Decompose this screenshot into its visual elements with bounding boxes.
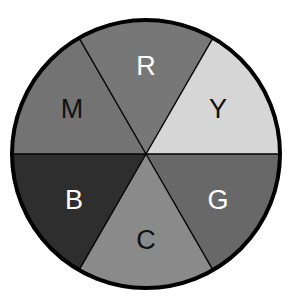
sector-label-b: B [65,185,83,215]
sector-label-m: M [61,94,84,124]
sector-label-g: G [207,185,228,215]
sector-label-r: R [136,51,156,81]
color-wheel-diagram: RYGCBM [0,0,292,306]
sector-label-y: Y [209,94,227,124]
sector-label-c: C [136,225,156,255]
